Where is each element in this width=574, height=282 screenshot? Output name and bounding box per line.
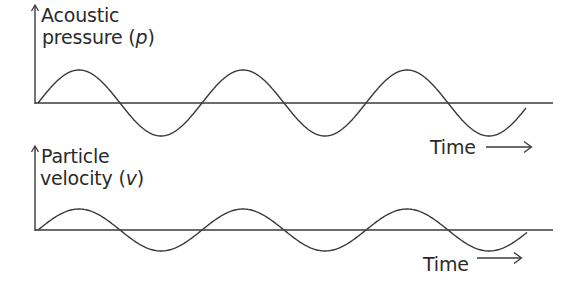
velocity-panel: [32, 146, 554, 264]
velocity-symbol: v: [126, 167, 137, 189]
pressure-ylabel-line2: pressure (p): [42, 26, 155, 48]
pressure-ylabel-line1: Acoustic: [41, 4, 119, 26]
velocity-ylabel-line2: velocity (v): [40, 167, 144, 189]
velocity-xlabel: Time: [423, 253, 469, 275]
pressure-ylabel-suffix: ): [147, 26, 154, 48]
pressure-symbol: p: [136, 26, 148, 48]
velocity-ylabel-line1: Particle: [41, 145, 110, 167]
pressure-xlabel: Time: [430, 136, 476, 158]
velocity-ylabel-suffix: ): [137, 167, 144, 189]
velocity-ylabel-prefix: velocity (: [40, 167, 126, 189]
pressure-ylabel-prefix: pressure (: [42, 26, 136, 48]
